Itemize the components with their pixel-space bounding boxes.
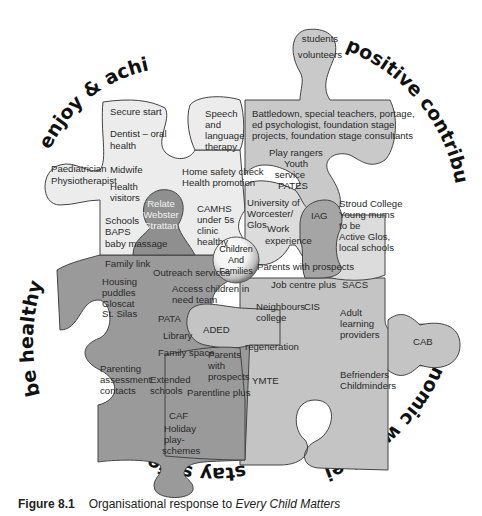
label: Housing [102,276,137,287]
label: YMTE [252,375,279,386]
theme-be-healthy: be healthy [15,277,46,399]
label: college [256,312,286,323]
label: ed psychologist, foundation stage [252,119,394,130]
label: service [275,169,305,180]
label: Health [110,181,138,192]
caption-italic-text: Every Child Matters [235,497,340,511]
label: Speech [205,108,238,119]
label: to be [339,220,360,231]
label: puddles [102,287,136,298]
label: CAB [413,336,433,347]
label: Worcester/ [247,208,294,219]
label: Family space [158,347,215,358]
label: Parenting [100,363,141,374]
label: therapy [205,141,237,152]
label: healthy [197,236,228,247]
label: Stroud College [339,198,402,209]
label: Outreach services [153,267,231,278]
label: BAPS [105,226,131,237]
label: projects, foundation stage consultants [252,130,413,141]
label: Active Glos, [339,231,390,242]
label: Adult [340,307,362,318]
label: Befrienders [340,369,389,380]
label: with [207,360,225,371]
label: Work [267,223,289,234]
figure-caption: Figure 8.1Organisational response to Eve… [18,497,340,511]
label: schools [150,385,183,396]
label: Secure start [110,106,162,117]
label: play- [164,434,185,445]
label: health [110,140,136,151]
label: St. Silas [102,308,137,319]
label: learning [340,318,374,329]
label: Youth [284,158,308,169]
label: Neighbours [256,301,305,312]
label: Paediatrician [51,163,106,174]
label: ADED [203,324,230,335]
label: under 5s [197,214,235,225]
ecm-puzzle-diagram: enjoy & achieve positive contribution be… [0,0,482,516]
label: Young mums [339,209,395,220]
label: Play rangers [269,147,323,158]
label: visitors [110,192,140,203]
label: Dentist – oral [110,128,167,139]
label: clinic [197,225,219,236]
label: Midwife [110,164,143,175]
label: Holiday [164,423,196,434]
label: language [205,130,244,141]
label: students [302,33,338,44]
label: baby massage [105,238,167,249]
label: Family link [105,258,151,269]
figure-label: Figure 8.1 [18,497,75,511]
label: PATES [278,180,308,191]
label-iag: IAG [311,210,328,221]
label: University of [247,197,300,208]
label: prospects [208,371,250,382]
label: Strattan [144,220,178,231]
label: Extended [150,374,191,385]
label: Library [163,330,193,341]
label: experience [265,235,312,246]
label: Access children in [172,283,249,294]
label: Health promotion [182,177,255,188]
label: Parents [208,349,241,360]
label: Battledown, special teachers, portage, [252,108,415,119]
caption-text: Organisational response to [89,497,236,511]
label: PATA [158,313,182,324]
label: Webster [143,209,179,220]
label: Childminders [340,380,396,391]
label: providers [340,329,380,340]
label: Relate [147,198,175,209]
label: Physiotherapist [51,175,117,186]
label: CAMHS [197,203,232,214]
hub-label-line2: And [228,255,244,265]
label: schemes [162,445,201,456]
label: CIS [304,301,320,312]
label: Job centre plus [271,279,336,290]
label: Home safety check [182,166,264,177]
label: Parentline plus [187,387,251,398]
label: regeneration [245,341,299,352]
label: Parents with prospects [257,261,354,272]
label: contacts [100,385,136,396]
labels-relate: Relate Webster Strattan [143,198,179,231]
label: local schools [339,242,394,253]
label: assessment [100,374,152,385]
label: and [205,119,221,130]
label: SACS [342,279,368,290]
label: need team [172,294,217,305]
label: Schools [105,215,139,226]
label: CAF [169,410,188,421]
label: Glos [247,219,267,230]
label: volunteers [298,49,342,60]
